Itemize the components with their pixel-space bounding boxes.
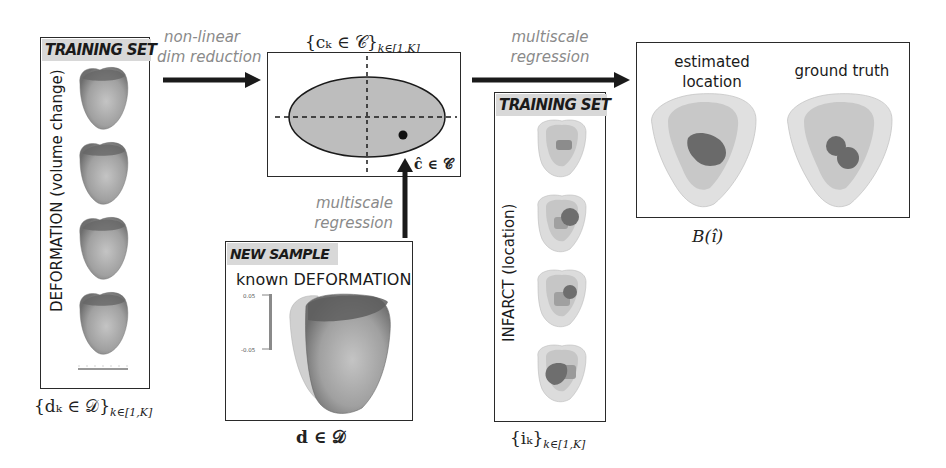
estimated-location-heart bbox=[652, 94, 756, 207]
heart-icon bbox=[80, 67, 128, 129]
infarct-hearts bbox=[532, 118, 602, 418]
deformation-hearts bbox=[70, 62, 150, 382]
new-sample-heart: 0.05 -0.05 bbox=[240, 290, 410, 420]
known-deformation-heading: known DEFORMATION bbox=[236, 270, 411, 289]
heart-icon bbox=[80, 292, 128, 354]
training-set-tag: TRAINING SET bbox=[496, 94, 607, 116]
ground-truth-heading: ground truth bbox=[792, 62, 892, 80]
new-sample-caption: d ∈ 𝒟 bbox=[296, 427, 346, 447]
deformation-set-caption: {dₖ ∈ 𝒟}k∈[1,K] bbox=[34, 396, 152, 419]
colorbar-min-label: -0.05 bbox=[241, 347, 256, 353]
heart-icon bbox=[538, 345, 586, 402]
colorbar-icon bbox=[78, 366, 128, 369]
up-regression-label: multiscale regression bbox=[313, 193, 393, 233]
regression-label: multiscale regression bbox=[500, 27, 600, 67]
dim-reduction-label: non-linear dim reduction bbox=[157, 27, 247, 67]
heart-icon bbox=[80, 142, 128, 204]
arrow-right-icon bbox=[472, 70, 632, 90]
estimated-point bbox=[399, 131, 408, 140]
infarct-vertical-label: INFARCT (location) bbox=[500, 204, 518, 342]
arrow-up-icon bbox=[395, 158, 415, 240]
arrow-right-icon bbox=[163, 70, 263, 90]
heart-icon bbox=[80, 217, 128, 279]
new-sample-tag: NEW SAMPLE bbox=[227, 243, 338, 265]
colorbar-icon bbox=[262, 294, 272, 350]
heart-icon bbox=[538, 270, 586, 327]
colorbar-max-label: 0.05 bbox=[243, 293, 256, 299]
heart-icon bbox=[538, 120, 586, 177]
estimated-location-heading: estimated location bbox=[662, 52, 762, 92]
c-hat-label: ĉ ∈ 𝒞 bbox=[414, 156, 453, 173]
ground-truth-heart bbox=[788, 94, 892, 207]
result-hearts bbox=[648, 92, 908, 214]
infarct-set-caption: {iₖ}k∈[1,K] bbox=[510, 428, 585, 451]
deformation-vertical-label: DEFORMATION (volume change) bbox=[48, 69, 66, 312]
result-caption: B(î) bbox=[692, 226, 723, 246]
training-set-tag: TRAINING SET bbox=[42, 39, 151, 61]
heart-icon bbox=[538, 195, 586, 252]
